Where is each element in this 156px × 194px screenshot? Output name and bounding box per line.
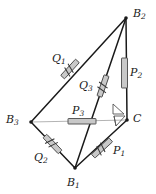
segment-label-Q3-sub: 3 [88, 84, 93, 93]
segment-marker-P2 [122, 58, 128, 88]
vertex-label-C: C [133, 113, 141, 124]
vertex-dot-B3 [29, 120, 33, 124]
vertex-label-B1-sub: 1 [75, 181, 80, 190]
figure-canvas [0, 0, 156, 194]
segment-label-Q2-sub: 2 [43, 156, 48, 165]
vertex-label-B1: B1 [67, 177, 80, 188]
segment-label-Q2: Q2 [34, 152, 48, 163]
segment-label-Q1-sub: 1 [61, 57, 66, 66]
right-angle-mark-upper [113, 104, 124, 114]
vertex-label-B2-base: B [133, 7, 141, 20]
vertex-label-B3: B3 [6, 114, 19, 125]
segment-marker-Q3 [95, 74, 112, 98]
segment-label-P2: P2 [130, 67, 142, 78]
segment-label-P3: P3 [72, 105, 84, 116]
vertex-label-B3-sub: 3 [14, 118, 19, 127]
segment-marker-P1-bar [91, 138, 112, 158]
segment-label-Q1-base: Q [52, 52, 61, 65]
segment-label-P3-sub: 3 [79, 109, 84, 118]
segment-marker-P2-bar [122, 58, 128, 88]
vertex-label-B2-sub: 2 [141, 12, 146, 21]
segment-label-P2-sub: 2 [137, 71, 142, 80]
right-angle-lower-diagonal [114, 116, 116, 126]
geometry-figure: B2 B3 B1 C Q1 Q3 Q2 P2 P3 P1 [0, 0, 156, 194]
segment-marker-P1 [90, 136, 114, 160]
segment-marker-P3-bar [68, 119, 96, 125]
vertex-label-B1-base: B [67, 176, 75, 189]
vertex-dot-B2 [124, 16, 128, 20]
vertex-dot-B1 [73, 166, 77, 170]
segment-label-Q3: Q3 [79, 80, 93, 91]
segment-marker-Q2-bar [43, 134, 62, 153]
segment-label-P1: P1 [113, 145, 125, 156]
segment-label-Q3-base: Q [79, 79, 88, 92]
right-angle-upper-diagonal [113, 104, 124, 114]
vertex-label-B2: B2 [133, 8, 146, 19]
segment-label-Q1: Q1 [52, 53, 66, 64]
segment-label-Q2-base: Q [34, 151, 43, 164]
segment-marker-Q3-bar [97, 75, 109, 98]
vertex-label-C-base: C [133, 112, 141, 125]
right-angle-mark-lower [114, 116, 125, 126]
vertex-dot-C [125, 118, 129, 122]
vertex-label-B3-base: B [6, 113, 14, 126]
segment-label-P1-sub: 1 [120, 149, 125, 158]
segment-marker-P3 [68, 119, 96, 125]
